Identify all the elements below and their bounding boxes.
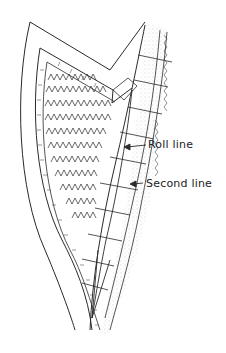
roll-line-label: Roll line (148, 138, 193, 151)
inner-tape-edge (47, 62, 115, 102)
pad-stitch-chevrons (45, 74, 111, 218)
second-line-label: Second line (146, 177, 212, 190)
tape-hatch (37, 62, 99, 325)
